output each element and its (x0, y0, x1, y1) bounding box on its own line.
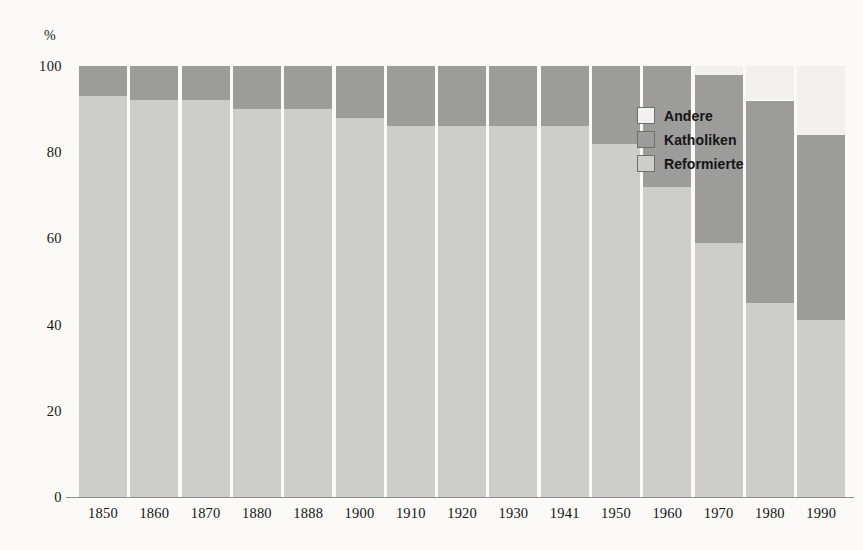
bar-segment-1850-katholiken (79, 66, 127, 96)
y-axis-tick-100: 100 (16, 58, 62, 75)
bar-1850 (79, 66, 127, 497)
bar-1888 (284, 66, 332, 497)
x-axis-tick-1980: 1980 (746, 505, 794, 522)
legend-swatch-icon-reformierte (637, 155, 655, 172)
bar-segment-1850-reformierte (79, 96, 127, 497)
bar-1860 (130, 66, 178, 497)
x-axis-tick-1860: 1860 (130, 505, 178, 522)
bar-segment-1960-reformierte (643, 187, 691, 497)
bar-segment-1950-reformierte (592, 144, 640, 497)
legend-swatch-icon-andere (637, 107, 655, 124)
x-axis-tick-1870: 1870 (182, 505, 230, 522)
legend-label-reformierte: Reformierte (664, 156, 744, 172)
x-axis-tick-1888: 1888 (284, 505, 332, 522)
bar-segment-1930-reformierte (489, 126, 537, 497)
bar-segment-1880-reformierte (233, 109, 281, 497)
x-axis-tick-1930: 1930 (489, 505, 537, 522)
x-axis-tick-1990: 1990 (797, 505, 845, 522)
x-axis-tick-1950: 1950 (592, 505, 640, 522)
legend-swatch-icon-katholiken (637, 131, 655, 148)
bar-segment-1941-reformierte (541, 126, 589, 497)
bar-segment-1930-katholiken (489, 66, 537, 126)
x-axis-tick-1920: 1920 (438, 505, 486, 522)
bar-segment-1888-katholiken (284, 66, 332, 109)
bar-segment-1990-reformierte (797, 320, 845, 497)
bar-segment-1860-katholiken (130, 66, 178, 100)
bar-segment-1900-katholiken (336, 66, 384, 118)
bar-segment-1980-andere (746, 66, 794, 100)
x-axis-tick-1910: 1910 (387, 505, 435, 522)
x-axis-baseline (66, 497, 854, 498)
legend-item-andere: Andere (637, 104, 817, 127)
bar-segment-1910-katholiken (387, 66, 435, 126)
y-axis-tick-20: 20 (16, 402, 62, 419)
bar-1870 (182, 66, 230, 497)
legend-label-andere: Andere (664, 108, 713, 124)
bar-segment-1860-reformierte (130, 100, 178, 497)
legend-item-reformierte: Reformierte (637, 152, 817, 175)
bar-segment-1920-reformierte (438, 126, 486, 497)
bar-1950 (592, 66, 640, 497)
y-axis-tick-0: 0 (16, 489, 62, 506)
bar-segment-1910-reformierte (387, 126, 435, 497)
legend-label-katholiken: Katholiken (664, 132, 737, 148)
bar-segment-1880-katholiken (233, 66, 281, 109)
y-axis-tick-40: 40 (16, 316, 62, 333)
stacked-bar-chart: % 100806040200 1850186018701880188819001… (0, 0, 863, 550)
bar-segment-1920-katholiken (438, 66, 486, 126)
y-axis-tick-80: 80 (16, 144, 62, 161)
bar-1880 (233, 66, 281, 497)
bar-segment-1888-reformierte (284, 109, 332, 497)
bar-1900 (336, 66, 384, 497)
bar-segment-1870-reformierte (182, 100, 230, 497)
x-axis-tick-1941: 1941 (541, 505, 589, 522)
bar-segment-1870-katholiken (182, 66, 230, 100)
bar-1910 (387, 66, 435, 497)
x-axis-tick-1960: 1960 (643, 505, 691, 522)
bar-segment-1980-reformierte (746, 303, 794, 497)
y-axis-tick-60: 60 (16, 230, 62, 247)
bar-1930 (489, 66, 537, 497)
bar-segment-1970-andere (695, 66, 743, 75)
bar-segment-1950-katholiken (592, 66, 640, 144)
bar-1920 (438, 66, 486, 497)
x-axis-tick-1850: 1850 (79, 505, 127, 522)
y-axis-labels: 100806040200 (16, 0, 62, 550)
bar-segment-1941-katholiken (541, 66, 589, 126)
x-axis-tick-1900: 1900 (336, 505, 384, 522)
bar-segment-1900-reformierte (336, 118, 384, 497)
chart-legend: AndereKatholikenReformierte (637, 104, 817, 176)
x-axis-tick-1970: 1970 (695, 505, 743, 522)
x-axis-tick-1880: 1880 (233, 505, 281, 522)
x-axis-labels: 1850186018701880188819001910192019301941… (79, 505, 859, 535)
legend-item-katholiken: Katholiken (637, 128, 817, 151)
bar-segment-1970-reformierte (695, 243, 743, 497)
bar-1941 (541, 66, 589, 497)
